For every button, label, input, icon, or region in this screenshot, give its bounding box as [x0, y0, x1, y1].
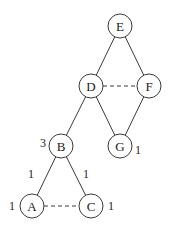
weight-label: 1	[135, 143, 141, 157]
edge-d-b	[66, 97, 85, 136]
edge-e-f	[125, 37, 144, 75]
node-e: E	[108, 14, 132, 38]
edges-layer	[37, 37, 144, 206]
weight-label: 1	[9, 199, 15, 213]
edge-e-d	[96, 37, 115, 75]
node-label: C	[87, 199, 96, 214]
node-label: F	[145, 79, 152, 94]
node-f: F	[137, 74, 161, 98]
node-label: B	[57, 139, 66, 154]
node-label: A	[27, 199, 37, 214]
node-label: E	[116, 19, 124, 34]
weight-label: 1	[108, 199, 114, 213]
node-label: G	[115, 139, 124, 154]
edge-b-a	[37, 157, 56, 195]
node-b: B	[49, 134, 73, 158]
node-c: C	[79, 194, 103, 218]
node-d: D	[79, 74, 103, 98]
node-a: A	[20, 194, 44, 218]
tree-diagram: EDFBGAC 311111	[0, 0, 171, 230]
node-g: G	[108, 134, 132, 158]
node-label: D	[86, 79, 95, 94]
edge-d-g	[96, 97, 115, 135]
weight-label: 3	[40, 136, 46, 150]
weight-label: 1	[83, 167, 89, 181]
edge-f-g	[125, 97, 144, 135]
weight-label: 1	[28, 167, 34, 181]
